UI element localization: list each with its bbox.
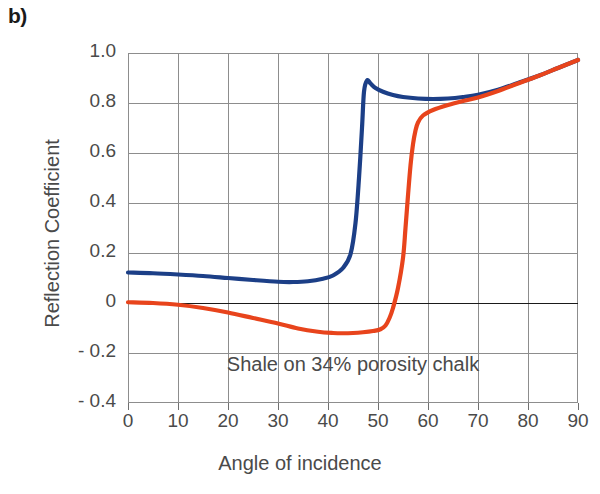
x-tick-mark xyxy=(478,403,479,410)
x-tick-mark xyxy=(128,403,129,410)
x-tick-mark xyxy=(428,403,429,410)
x-axis-title: Angle of incidence xyxy=(0,452,600,475)
panel-label: b) xyxy=(8,4,27,28)
x-tick-mark xyxy=(578,403,579,410)
x-tick-mark xyxy=(178,403,179,410)
y-axis-title: Reflection Coefficient xyxy=(41,89,64,379)
y-tick-label: 0.8 xyxy=(8,90,116,112)
x-tick-mark xyxy=(528,403,529,410)
x-tick-mark xyxy=(378,403,379,410)
y-tick-label: 0.4 xyxy=(8,190,116,212)
x-tick-mark xyxy=(328,403,329,410)
y-tick-label: 0.2 xyxy=(8,240,116,262)
y-tick-label: 0 xyxy=(8,290,116,312)
series-red-line xyxy=(128,60,578,333)
y-tick-label: - 0.2 xyxy=(8,340,116,362)
x-tick-mark xyxy=(228,403,229,410)
y-tick-label: 1.0 xyxy=(8,40,116,62)
x-tick-label: 90 xyxy=(548,410,600,432)
chart-annotation: Shale on 34% porosity chalk xyxy=(128,353,578,376)
y-tick-label: - 0.4 xyxy=(8,390,116,412)
figure-panel-b: b) Reflection Coefficient 1.00.80.60.40.… xyxy=(0,0,600,494)
y-tick-label: 0.6 xyxy=(8,140,116,162)
series-blue-line xyxy=(128,60,578,282)
chart-curves xyxy=(128,53,578,403)
x-tick-mark xyxy=(278,403,279,410)
